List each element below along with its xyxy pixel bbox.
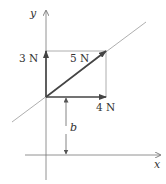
label-3n: 3 N <box>19 52 38 64</box>
force-diagram: y x 3 N 5 N 4 N b <box>0 0 166 184</box>
label-4n: 4 N <box>96 101 115 113</box>
x-axis-label: x <box>154 158 161 171</box>
label-5n: 5 N <box>70 52 89 64</box>
label-b: b <box>70 121 77 134</box>
y-axis-label: y <box>29 7 37 20</box>
